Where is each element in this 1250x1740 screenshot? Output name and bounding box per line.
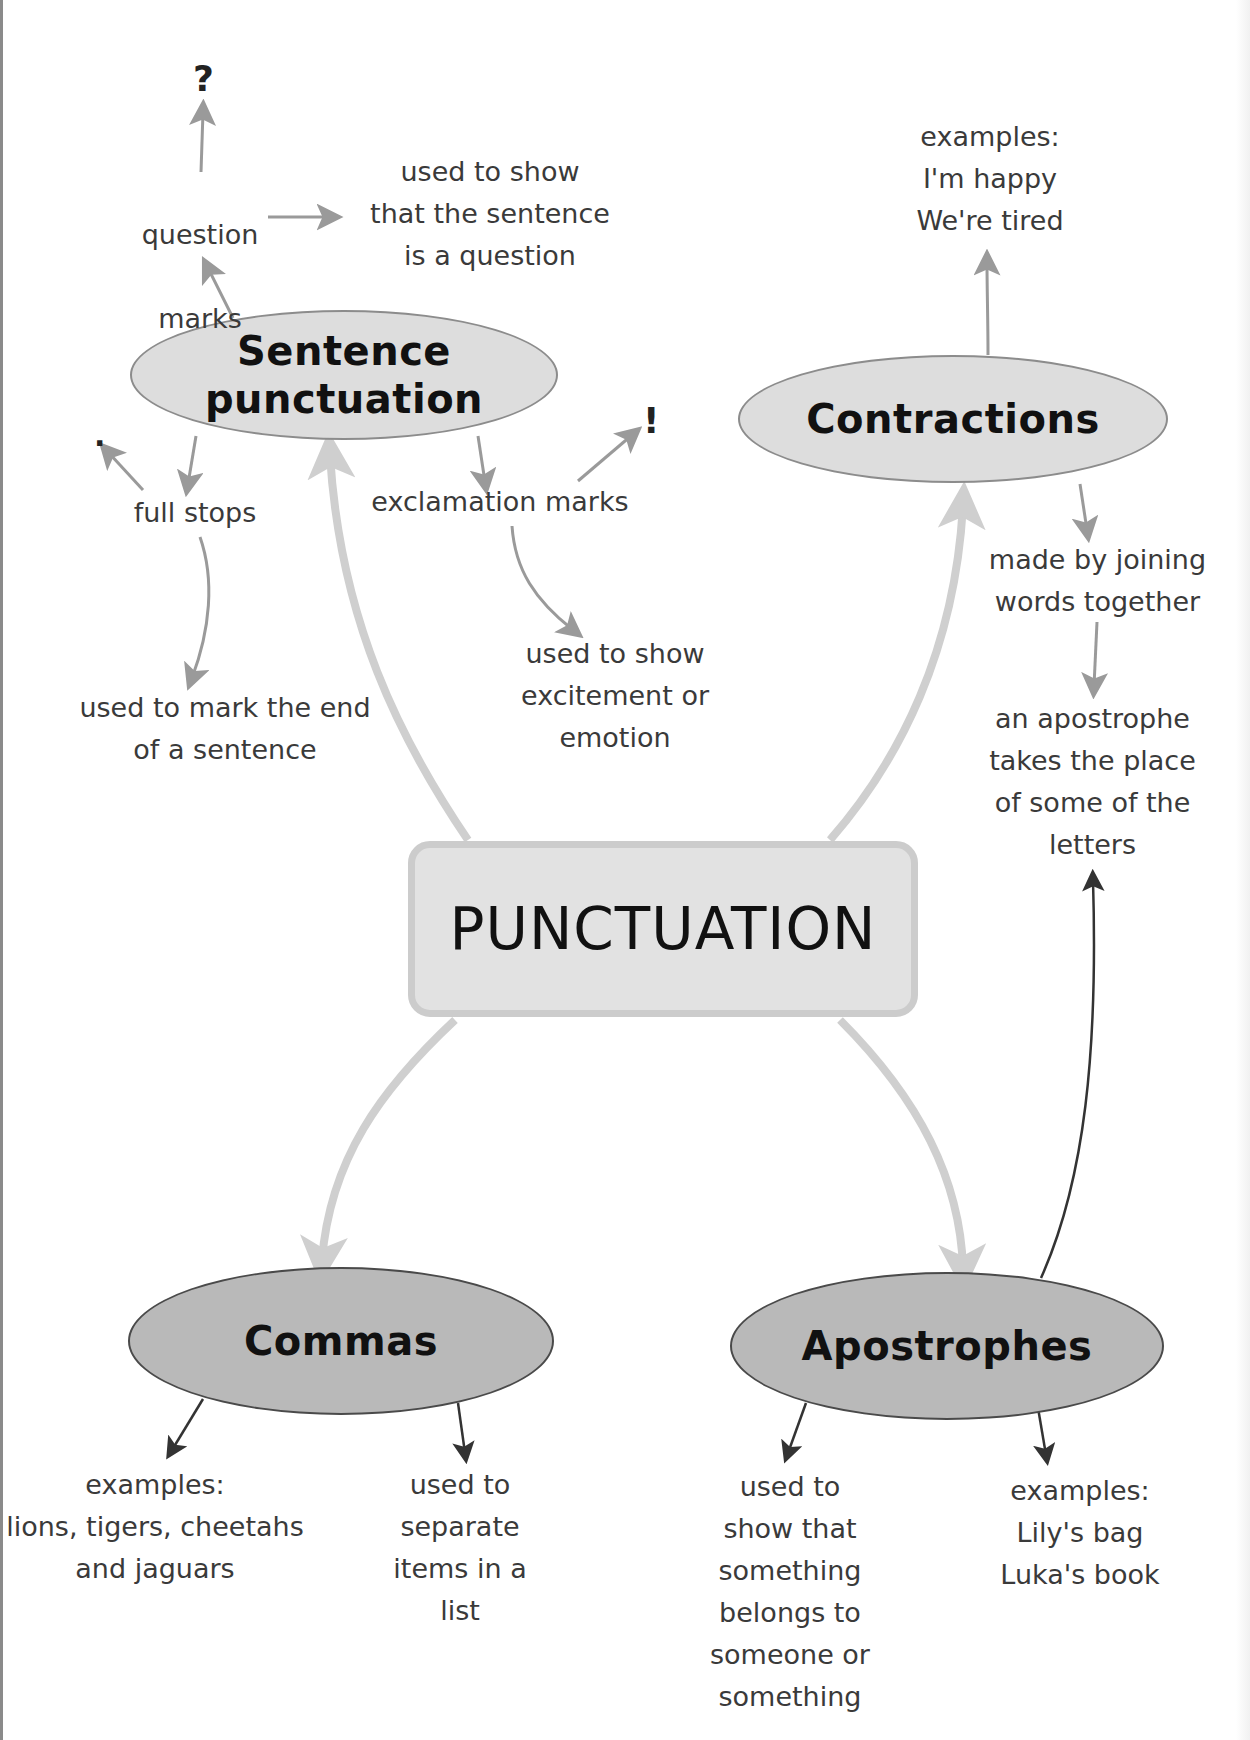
center-node-punctuation: PUNCTUATION (408, 841, 918, 1017)
node-label: Commas (244, 1317, 438, 1365)
arrow-contractions-to-description (1080, 484, 1087, 530)
arrow-exclamation-to-symbol (578, 435, 632, 481)
full-stops-description: used to mark the end of a sentence (60, 687, 390, 771)
exclamation-mark-symbol: ! (643, 400, 659, 441)
exclamation-marks-description: used to show excitement or emotion (490, 633, 740, 759)
apostrophes-examples: examples: Lily's bag Luka's book (975, 1470, 1185, 1596)
question-mark-symbol: ? (193, 58, 214, 99)
arrow-question-to-symbol (201, 112, 203, 172)
arrow-fullstops-to-symbol (108, 452, 143, 490)
contractions-description: made by joining words together (975, 539, 1220, 623)
arrow-center-to-apostrophes (840, 1020, 963, 1268)
center-node-label: PUNCTUATION (450, 895, 877, 963)
arrow-commas-to-examples (172, 1399, 203, 1450)
contractions-examples: examples: I'm happy We're tired (860, 116, 1120, 242)
arrow-commas-to-description (458, 1403, 465, 1453)
node-label: Apostrophes (802, 1322, 1093, 1370)
full-stops-label: full stops (110, 492, 280, 534)
arrow-exclamation-to-description (512, 526, 573, 630)
node-apostrophes: Apostrophes (730, 1272, 1164, 1420)
arrow-sentence-to-exclamation (478, 436, 485, 482)
contractions-detail: an apostrophe takes the place of some of… (975, 698, 1210, 866)
question-marks-description: used to show that the sentence is a ques… (345, 151, 635, 277)
node-label-line2: punctuation (205, 375, 483, 423)
commas-description: used to separate items in a list (370, 1464, 550, 1632)
arrow-description-to-detail (1094, 622, 1097, 686)
arrow-center-to-commas (322, 1020, 455, 1260)
arrow-fullstops-to-description (192, 537, 209, 678)
node-commas: Commas (128, 1267, 554, 1415)
arrow-contractions-to-examples (987, 262, 988, 355)
apostrophes-description: used to show that something belongs to s… (690, 1466, 890, 1718)
commas-examples: examples: lions, tigers, cheetahs and ja… (0, 1464, 310, 1590)
node-label: Contractions (806, 395, 1099, 443)
arrow-sentence-to-fullstops (188, 436, 196, 484)
question-marks-label: question marks (120, 172, 280, 382)
exclamation-marks-label: exclamation marks (360, 481, 640, 523)
arrow-apostrophes-to-description (788, 1403, 806, 1453)
arrow-center-to-contractions (830, 505, 963, 840)
node-contractions: Contractions (738, 355, 1168, 483)
full-stop-symbol: . (94, 418, 105, 453)
arrow-apostrophes-to-contraction-detail (1041, 880, 1094, 1278)
